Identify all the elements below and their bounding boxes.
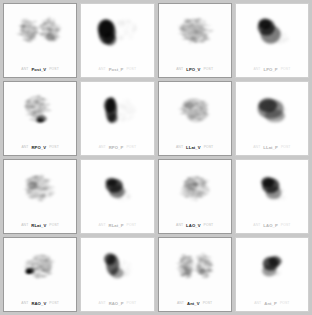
panel-view-label: RAO_P <box>109 301 124 306</box>
scan-panel-llat_v[interactable]: ANTLLat_VPOST <box>158 81 232 156</box>
panel-label-row: ANTRAO_PPOST <box>81 297 153 310</box>
scan-panel-rpo_v[interactable]: ANTRPO_VPOST <box>3 81 77 156</box>
scan-image-rao_p <box>81 238 153 296</box>
scan-image-ant_v <box>159 238 231 296</box>
panel-side-label-left: ANT <box>176 223 183 227</box>
scintigraphy-viewer: ANTPost_VPOSTANTPost_PPOSTANTLPO_VPOSTAN… <box>0 0 312 315</box>
panel-view-label: Ant_P <box>264 301 277 306</box>
scan-image-ant_p <box>236 238 308 296</box>
scan-panel-post_v[interactable]: ANTPost_VPOST <box>3 3 77 78</box>
panel-label-row: ANTAnt_PPOST <box>236 297 308 310</box>
panel-label-row: ANTPost_PPOST <box>81 63 153 76</box>
panel-label-row: ANTRLat_VPOST <box>4 219 76 232</box>
panel-view-label: Ant_V <box>187 301 200 306</box>
panel-side-label-right: POST <box>127 67 137 71</box>
scan-image-rao_v <box>4 238 76 296</box>
panel-label-row: ANTRPO_VPOST <box>4 141 76 154</box>
panel-side-label-right: POST <box>49 67 59 71</box>
panel-side-label-left: ANT <box>99 67 106 71</box>
scan-panel-rlat_p[interactable]: ANTRLat_PPOST <box>80 159 154 234</box>
scan-image-rlat_v <box>4 160 76 218</box>
panel-label-row: ANTRPO_PPOST <box>81 141 153 154</box>
scan-panel-lao_v[interactable]: ANTLAO_VPOST <box>158 159 232 234</box>
panel-side-label-right: POST <box>49 301 59 305</box>
panel-view-label: RLat_P <box>109 223 124 228</box>
panel-side-label-right: POST <box>49 145 59 149</box>
panel-label-row: ANTAnt_VPOST <box>159 297 231 310</box>
panel-side-label-left: ANT <box>21 145 28 149</box>
panel-view-label: RLat_V <box>31 223 46 228</box>
panel-side-label-right: POST <box>203 301 213 305</box>
panel-side-label-left: ANT <box>253 223 260 227</box>
panel-side-label-right: POST <box>126 145 136 149</box>
panel-label-row: ANTLAO_VPOST <box>159 219 231 232</box>
panel-side-label-left: ANT <box>21 223 28 227</box>
panel-side-label-right: POST <box>204 145 214 149</box>
panel-side-label-right: POST <box>127 223 137 227</box>
scan-image-lpo_p <box>236 4 308 62</box>
panel-side-label-left: ANT <box>176 145 183 149</box>
scan-image-llat_p <box>236 82 308 140</box>
scan-panel-ant_v[interactable]: ANTAnt_VPOST <box>158 237 232 312</box>
panel-label-row: ANTPost_VPOST <box>4 63 76 76</box>
panel-side-label-left: ANT <box>21 67 28 71</box>
panel-side-label-left: ANT <box>99 301 106 305</box>
panel-view-label: RPO_V <box>32 145 47 150</box>
panel-side-label-right: POST <box>49 223 59 227</box>
scan-panel-lpo_v[interactable]: ANTLPO_VPOST <box>158 3 232 78</box>
panel-side-label-right: POST <box>203 67 213 71</box>
panel-side-label-right: POST <box>281 223 291 227</box>
scan-panel-rlat_v[interactable]: ANTRLat_VPOST <box>3 159 77 234</box>
panel-label-row: ANTLPO_PPOST <box>236 63 308 76</box>
panel-view-label: Post_V <box>31 67 46 72</box>
scan-panel-rao_v[interactable]: ANTRAO_VPOST <box>3 237 77 312</box>
panel-side-label-right: POST <box>280 301 290 305</box>
scan-panel-post_p[interactable]: ANTPost_PPOST <box>80 3 154 78</box>
scan-image-rpo_v <box>4 82 76 140</box>
scan-panel-rpo_p[interactable]: ANTRPO_PPOST <box>80 81 154 156</box>
panel-label-row: ANTRAO_VPOST <box>4 297 76 310</box>
panel-side-label-left: ANT <box>99 145 106 149</box>
scan-panel-lpo_p[interactable]: ANTLPO_PPOST <box>235 3 309 78</box>
panel-view-label: Post_P <box>109 67 124 72</box>
panel-view-label: LPO_P <box>263 67 277 72</box>
scan-image-post_p <box>81 4 153 62</box>
scan-image-rlat_p <box>81 160 153 218</box>
panel-label-row: ANTLLat_PPOST <box>236 141 308 154</box>
scan-panel-llat_p[interactable]: ANTLLat_PPOST <box>235 81 309 156</box>
scan-image-llat_v <box>159 82 231 140</box>
panel-side-label-left: ANT <box>98 223 105 227</box>
panel-view-label: LPO_V <box>186 67 200 72</box>
scan-panel-lao_p[interactable]: ANTLAO_PPOST <box>235 159 309 234</box>
panel-side-label-left: ANT <box>21 301 28 305</box>
scan-image-rpo_p <box>81 82 153 140</box>
panel-label-row: ANTLLat_VPOST <box>159 141 231 154</box>
panel-label-row: ANTRLat_PPOST <box>81 219 153 232</box>
scan-panel-ant_p[interactable]: ANTAnt_PPOST <box>235 237 309 312</box>
panel-side-label-left: ANT <box>253 67 260 71</box>
panel-grid: ANTPost_VPOSTANTPost_PPOSTANTLPO_VPOSTAN… <box>3 3 309 312</box>
panel-side-label-right: POST <box>204 223 214 227</box>
panel-view-label: RPO_P <box>109 145 124 150</box>
panel-side-label-left: ANT <box>254 301 261 305</box>
panel-side-label-right: POST <box>281 145 291 149</box>
panel-side-label-right: POST <box>127 301 137 305</box>
panel-side-label-right: POST <box>281 67 291 71</box>
panel-view-label: LLat_P <box>263 145 278 150</box>
scan-image-post_v <box>4 4 76 62</box>
scan-image-lao_p <box>236 160 308 218</box>
panel-side-label-left: ANT <box>177 301 184 305</box>
panel-view-label: RAO_V <box>31 301 46 306</box>
panel-label-row: ANTLAO_PPOST <box>236 219 308 232</box>
scan-image-lpo_v <box>159 4 231 62</box>
panel-label-row: ANTLPO_VPOST <box>159 63 231 76</box>
panel-side-label-left: ANT <box>253 145 260 149</box>
panel-view-label: LAO_V <box>186 223 200 228</box>
panel-view-label: LAO_P <box>263 223 277 228</box>
scan-image-lao_v <box>159 160 231 218</box>
panel-side-label-left: ANT <box>176 67 183 71</box>
scan-panel-rao_p[interactable]: ANTRAO_PPOST <box>80 237 154 312</box>
panel-view-label: LLat_V <box>186 145 201 150</box>
